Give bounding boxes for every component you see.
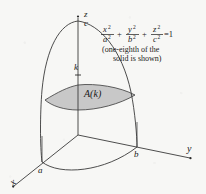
equation-plus-2: + xyxy=(142,29,147,39)
a-intercept-label: a xyxy=(38,165,43,175)
ellipsoid-figure: z c k A(k) a b y x x 2 a 2 + y 2 b 2 + z… xyxy=(0,0,206,194)
caption-line-2: solid is shown) xyxy=(113,54,162,63)
equation-plus-1: + xyxy=(117,29,122,39)
caption-line-1: (one-eighth of the xyxy=(102,45,160,54)
c-intercept-label: c xyxy=(84,18,88,28)
ellipsoid-equation: x 2 a 2 + y 2 b 2 + z 2 c 2 =1 xyxy=(101,24,173,45)
equation-term1-denominator-exponent: 2 xyxy=(108,34,111,40)
equation-term1-denominator: a xyxy=(103,34,107,44)
equation-term2-denominator-exponent: 2 xyxy=(133,34,136,40)
b-intercept-label: b xyxy=(134,149,139,159)
equation-term3-numerator-exponent: 2 xyxy=(158,24,161,30)
equation-term1-numerator: x xyxy=(102,24,107,34)
equation-equals-one: =1 xyxy=(164,29,173,39)
equation-term3-denominator-exponent: 2 xyxy=(158,34,161,40)
equation-term2-denominator: b xyxy=(128,34,132,44)
x-axis xyxy=(14,135,78,186)
base-arc-xy xyxy=(42,147,137,170)
equation-term2-numerator-exponent: 2 xyxy=(133,24,136,30)
z-axis-tip xyxy=(77,15,79,17)
y-axis-tip xyxy=(189,157,191,159)
equation-term3-denominator: c xyxy=(153,34,157,44)
equation-term2-numerator: y xyxy=(127,24,132,34)
y-axis-label: y xyxy=(186,143,192,154)
equation-term3-numerator: z xyxy=(152,24,157,34)
equation-term1-numerator-exponent: 2 xyxy=(108,24,111,30)
x-axis-label: x xyxy=(7,176,19,188)
area-function-label: A(k) xyxy=(83,88,102,100)
